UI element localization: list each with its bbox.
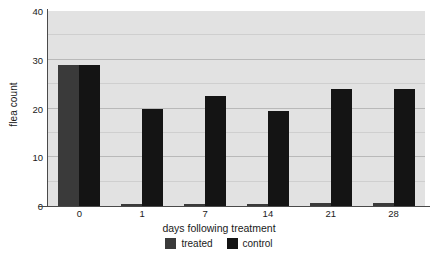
bar-control [331, 89, 352, 206]
bar-group [174, 11, 237, 206]
y-axis-tick-label: 40 [18, 6, 46, 17]
bar-treated [373, 203, 394, 206]
chart-legend: treatedcontrol [0, 238, 438, 249]
x-axis-tick-label: 14 [263, 208, 274, 219]
bar-group [299, 11, 362, 206]
bar-group [237, 11, 300, 206]
bar-group [48, 11, 111, 206]
x-axis-tick-label: 0 [77, 208, 82, 219]
legend-swatch-icon [227, 238, 238, 249]
bar-treated [247, 204, 268, 206]
x-axis-title: days following treatment [0, 222, 438, 234]
legend-entry-treated[interactable]: treated [165, 238, 212, 249]
flea-count-bar-chart: flea count 010203040 017142128 days foll… [0, 0, 438, 263]
y-axis-tick-label: 30 [18, 54, 46, 65]
bar-treated [184, 204, 205, 206]
bar-control [394, 89, 415, 206]
x-axis-tick-label: 7 [202, 208, 207, 219]
legend-label: control [243, 238, 273, 249]
x-axis-tick-label: 21 [325, 208, 336, 219]
y-axis-tick-label: 20 [18, 103, 46, 114]
legend-swatch-icon [165, 238, 176, 249]
bar-treated [58, 65, 79, 206]
legend-entry-control[interactable]: control [227, 238, 273, 249]
bar-group [362, 11, 425, 206]
bar-control [79, 65, 100, 206]
bar-treated [121, 204, 142, 206]
legend-label: treated [181, 238, 212, 249]
bar-treated [310, 203, 331, 206]
bar-control [268, 111, 289, 206]
bar-control [205, 96, 226, 206]
y-axis-tick-label: 10 [18, 152, 46, 163]
x-axis-line [38, 206, 430, 207]
plot-area [48, 11, 425, 206]
x-axis-tick-label: 1 [140, 208, 145, 219]
y-axis-title-text: flea count [8, 82, 19, 126]
bar-control [142, 109, 163, 207]
x-axis-tick-label: 28 [388, 208, 399, 219]
bar-group [111, 11, 174, 206]
